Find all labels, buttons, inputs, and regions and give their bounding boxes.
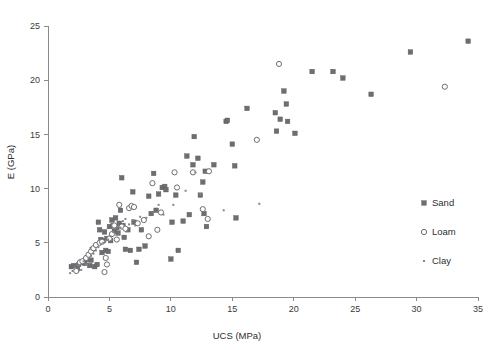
point-sand — [146, 194, 151, 199]
point-sand — [232, 164, 237, 169]
scatter-chart: 0510152025 05101520253035 SandLoamClay U… — [0, 0, 498, 350]
point-loam — [206, 169, 211, 174]
point-clay — [122, 220, 124, 222]
point-loam — [155, 227, 160, 232]
y-tick-label: 15 — [30, 130, 40, 140]
point-sand — [95, 262, 100, 267]
point-sand — [181, 219, 186, 224]
point-sand — [369, 92, 374, 97]
point-sand — [245, 106, 250, 111]
legend-label-sand: Sand — [432, 197, 454, 208]
point-clay — [124, 218, 126, 220]
legend-marker-clay — [423, 260, 425, 262]
point-clay — [258, 203, 260, 205]
point-loam — [104, 262, 109, 267]
point-clay — [194, 171, 196, 173]
series-sand — [69, 39, 470, 271]
point-sand — [185, 154, 190, 159]
point-clay — [185, 190, 187, 192]
point-sand — [274, 129, 279, 134]
point-sand — [113, 216, 118, 221]
legend-item-loam[interactable]: Loam — [421, 226, 455, 237]
point-clay — [85, 263, 87, 265]
legend-item-sand[interactable]: Sand — [422, 197, 454, 208]
point-loam — [172, 170, 177, 175]
point-sand — [169, 257, 174, 262]
point-sand — [201, 180, 206, 185]
y-axis: 0510152025 — [30, 21, 48, 302]
legend-marker-loam — [421, 229, 426, 234]
point-clay — [102, 242, 104, 244]
point-loam — [200, 207, 205, 212]
y-tick-label: 20 — [30, 75, 40, 85]
point-sand — [170, 220, 175, 225]
point-loam — [150, 181, 155, 186]
point-sand — [130, 190, 135, 195]
point-sand — [137, 247, 142, 252]
x-axis-title: UCS (MPa) — [213, 330, 262, 341]
point-sand — [282, 89, 287, 94]
x-tick-label: 10 — [166, 304, 176, 314]
point-loam — [146, 234, 151, 239]
y-tick-label: 10 — [30, 184, 40, 194]
y-tick-label: 25 — [30, 21, 40, 31]
point-loam — [103, 255, 108, 260]
point-loam — [117, 202, 122, 207]
point-sand — [310, 69, 315, 74]
point-clay — [78, 265, 80, 267]
legend-item-clay[interactable]: Clay — [423, 255, 451, 266]
point-sand — [466, 39, 471, 44]
point-sand — [331, 69, 336, 74]
point-clay — [88, 257, 90, 259]
point-clay — [74, 267, 76, 269]
point-loam — [254, 137, 259, 142]
point-sand — [123, 247, 128, 252]
point-clay — [107, 239, 109, 241]
x-tick-label: 25 — [350, 304, 360, 314]
y-axis-title: E (GPa) — [5, 145, 16, 179]
point-clay — [97, 246, 99, 248]
point-clay — [223, 209, 225, 211]
x-tick-label: 20 — [289, 304, 299, 314]
point-sand — [116, 231, 121, 236]
point-clay — [128, 223, 130, 225]
legend-marker-sand — [422, 201, 427, 206]
point-sand — [134, 260, 139, 265]
point-clay — [69, 272, 71, 274]
point-sand — [118, 208, 123, 213]
point-sand — [106, 249, 111, 254]
point-sand — [293, 131, 298, 136]
point-sand — [284, 102, 289, 107]
point-sand — [176, 248, 181, 253]
x-tick-label: 5 — [107, 304, 112, 314]
point-sand — [139, 227, 144, 232]
point-clay — [134, 224, 136, 226]
point-clay — [83, 260, 85, 262]
x-tick-label: 15 — [227, 304, 237, 314]
point-loam — [114, 237, 119, 242]
point-sand — [225, 118, 230, 123]
point-sand — [212, 162, 217, 167]
point-loam — [102, 269, 107, 274]
point-sand — [278, 117, 283, 122]
x-tick-label: 35 — [473, 304, 483, 314]
point-sand — [164, 187, 169, 192]
point-clay — [115, 228, 117, 230]
point-clay — [162, 214, 164, 216]
x-tick-label: 0 — [45, 304, 50, 314]
series-loam — [74, 61, 448, 274]
point-clay — [139, 216, 141, 218]
y-tick-label: 5 — [35, 238, 40, 248]
point-loam — [205, 216, 210, 221]
x-tick-label: 30 — [412, 304, 422, 314]
plot-area: 0510152025 05101520253035 SandLoamClay U… — [0, 0, 498, 350]
point-clay — [92, 253, 94, 255]
point-clay — [145, 217, 147, 219]
point-sand — [96, 220, 101, 225]
legend: SandLoamClay — [421, 197, 455, 266]
point-loam — [112, 223, 117, 228]
x-axis: 05101520253035 — [45, 297, 483, 314]
point-clay — [72, 270, 74, 272]
legend-label-loam: Loam — [432, 226, 456, 237]
point-sand — [192, 134, 197, 139]
